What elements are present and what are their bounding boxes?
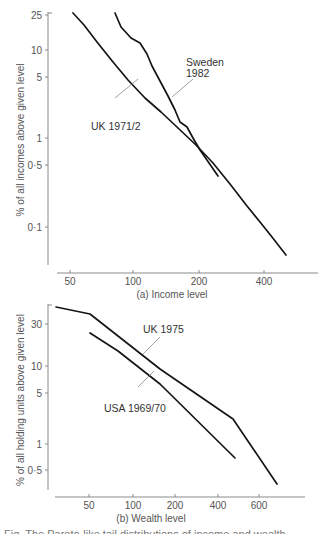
panel-b-wealth: 30 10 5 1 0·5 % of all holding units abo… xyxy=(15,304,305,524)
series-usa-1969-70-curve xyxy=(90,333,235,458)
panel-b-y-axis-title: % of all holding units above given level xyxy=(15,314,26,486)
y-tick-label-1: 1 xyxy=(36,439,42,450)
y-tick-label-0-5: 0·5 xyxy=(28,465,43,476)
y-tick-label-10: 10 xyxy=(31,45,43,56)
sweden-label-line2: 1982 xyxy=(186,67,210,79)
uk-1975-leader-line xyxy=(143,337,160,354)
x-tick-label-50: 50 xyxy=(64,276,76,287)
y-tick-label-0-5: 0·5 xyxy=(28,160,43,171)
y-tick-label-10: 10 xyxy=(31,361,43,372)
x-tick-label-400: 400 xyxy=(256,276,273,287)
x-tick-label-100: 100 xyxy=(125,276,142,287)
figure-caption-text: Fig. The Pareto-like tail distributions … xyxy=(0,527,321,534)
y-tick-label-5: 5 xyxy=(36,388,42,399)
x-tick-label-400: 400 xyxy=(210,500,227,511)
figure-caption-clipped: Fig. The Pareto-like tail distributions … xyxy=(0,527,321,534)
uk-1971-2-leader-line xyxy=(115,79,138,98)
panel-b-y-ticks: 30 10 5 1 0·5 xyxy=(28,319,48,476)
x-tick-label-200: 200 xyxy=(191,276,208,287)
panel-b-x-axis-title: (b) Wealth level xyxy=(116,513,185,524)
y-tick-label-1: 1 xyxy=(36,133,42,144)
panel-a-x-axis-title: (a) Income level xyxy=(136,289,207,300)
x-tick-label-200: 200 xyxy=(167,500,184,511)
figure-canvas: 25 10 5 1 0·5 0·1 % of all incomes above… xyxy=(0,0,321,534)
x-tick-label-600: 600 xyxy=(251,500,268,511)
y-tick-label-0-1: 0·1 xyxy=(28,222,43,233)
y-tick-label-25: 25 xyxy=(31,10,43,21)
x-tick-label-50: 50 xyxy=(83,500,95,511)
panel-a-y-ticks: 25 10 5 1 0·5 0·1 xyxy=(28,10,48,233)
series-uk-1971-2-curve xyxy=(73,13,286,255)
y-tick-label-30: 30 xyxy=(31,319,43,330)
y-tick-label-5: 5 xyxy=(36,72,42,83)
panel-a-income: 25 10 5 1 0·5 0·1 % of all incomes above… xyxy=(15,10,318,300)
uk-1971-2-label: UK 1971/2 xyxy=(91,120,141,132)
usa-1969-70-label: USA 1969/70 xyxy=(104,402,166,414)
sweden-1982-leader-line xyxy=(172,79,193,97)
panel-a-y-axis-title: % of all incomes above given level xyxy=(15,64,26,217)
x-tick-label-100: 100 xyxy=(125,500,142,511)
uk-1975-label: UK 1975 xyxy=(143,323,184,335)
